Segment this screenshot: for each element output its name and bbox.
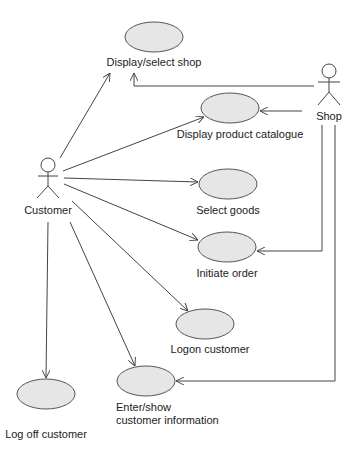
assoc-shop-initiate-order (257, 125, 322, 251)
use-case-select-goods[interactable] (199, 169, 257, 199)
use-case-log-off-customer[interactable] (17, 379, 75, 409)
label-display-select-shop: Display/select shop (107, 56, 202, 69)
actor-shop-icon[interactable] (318, 64, 340, 105)
label-display-product-catalogue: Display product catalogue (177, 128, 304, 141)
label-initiate-order: Initiate order (196, 267, 257, 280)
label-select-goods: Select goods (196, 204, 260, 217)
use-case-logon-customer[interactable] (176, 309, 234, 339)
label-logon-customer: Logon customer (171, 343, 250, 356)
use-case-enter-show-customer-information[interactable] (117, 366, 175, 396)
assoc-customer-select-goods (64, 178, 198, 182)
assoc-customer-display-product-catalogue (63, 117, 204, 171)
actor-customer-icon[interactable] (37, 158, 59, 198)
assoc-customer-log-off (46, 222, 48, 378)
assoc-customer-display-select-shop (60, 73, 110, 158)
assoc-customer-enter-show-info (70, 222, 135, 366)
assoc-shop-display-select-shop (134, 73, 314, 86)
label-actor-shop: Shop (316, 110, 342, 123)
assoc-customer-logon-customer (72, 201, 188, 311)
use-case-display-product-catalogue[interactable] (201, 93, 259, 123)
label-enter-show-line2: customer information (116, 414, 219, 427)
use-case-initiate-order[interactable] (198, 232, 256, 262)
use-case-display-select-shop[interactable] (125, 22, 183, 52)
label-actor-customer: Customer (24, 204, 72, 217)
label-log-off-customer: Log off customer (5, 428, 87, 441)
label-enter-show-line1: Enter/show (116, 401, 171, 414)
